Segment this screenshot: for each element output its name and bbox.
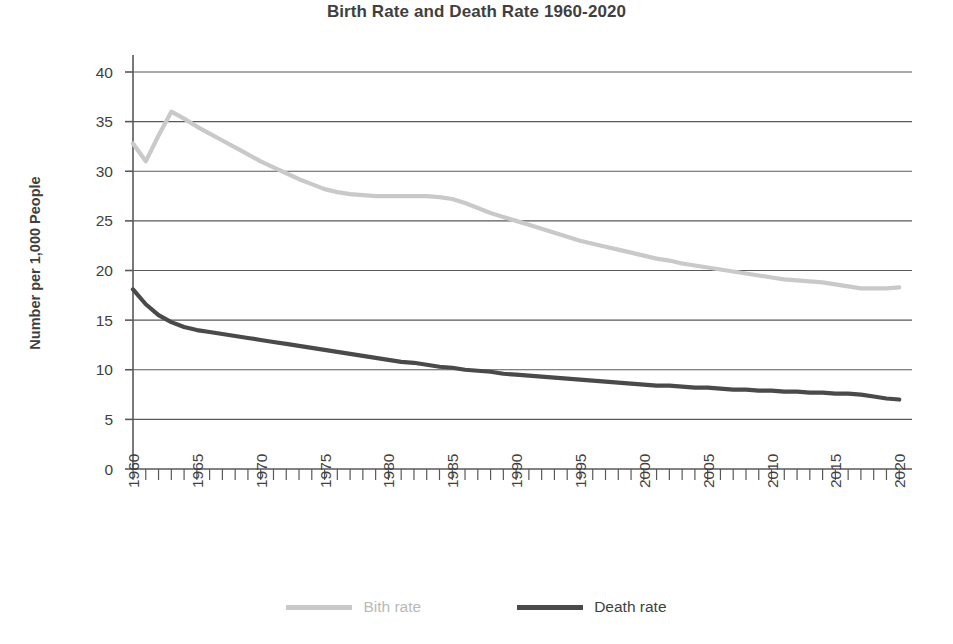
x-tick-label: 1975 [317, 454, 334, 488]
chart-legend: Bith rate Death rate [0, 598, 953, 616]
gridlines [133, 72, 912, 419]
series-line-death-rate [133, 289, 899, 399]
x-axis-tick-labels: 1960196519701975198019851990199520002005… [125, 453, 908, 488]
y-axis-ticks [125, 72, 133, 469]
y-tick-label: 5 [104, 411, 113, 428]
legend-item-birth-rate: Bith rate [286, 598, 421, 616]
plot-area: 0510152025303540 19601965197019751980198… [0, 0, 953, 590]
chart-container: Birth Rate and Death Rate 1960-2020 Numb… [0, 0, 953, 644]
x-tick-label: 1990 [508, 453, 525, 488]
y-tick-label: 40 [96, 64, 114, 81]
legend-line-birth-icon [286, 605, 352, 610]
x-tick-label: 2015 [827, 454, 844, 488]
y-tick-label: 15 [96, 312, 113, 329]
x-tick-label: 2020 [891, 453, 908, 488]
data-series-lines [133, 112, 899, 400]
x-tick-label: 1960 [125, 453, 142, 488]
y-tick-label: 20 [96, 262, 114, 279]
legend-label-birth-rate: Bith rate [363, 598, 421, 616]
x-tick-label: 1965 [189, 454, 206, 488]
x-tick-label: 2005 [700, 454, 717, 488]
x-tick-label: 1995 [572, 454, 589, 488]
y-tick-label: 30 [96, 163, 114, 180]
x-tick-label: 1985 [444, 454, 461, 488]
y-tick-label: 10 [96, 361, 114, 378]
legend-label-death-rate: Death rate [594, 598, 666, 616]
y-tick-label: 35 [96, 113, 113, 130]
y-axis-tick-labels: 0510152025303540 [96, 64, 114, 478]
x-tick-label: 1980 [380, 453, 397, 488]
x-tick-label: 2000 [636, 453, 653, 488]
legend-item-death-rate: Death rate [517, 598, 666, 616]
y-tick-label: 0 [104, 461, 113, 478]
legend-line-death-icon [517, 605, 583, 610]
x-tick-label: 2010 [764, 453, 781, 488]
y-tick-label: 25 [96, 212, 113, 229]
x-tick-label: 1970 [253, 453, 270, 488]
series-line-birth-rate [133, 112, 899, 289]
